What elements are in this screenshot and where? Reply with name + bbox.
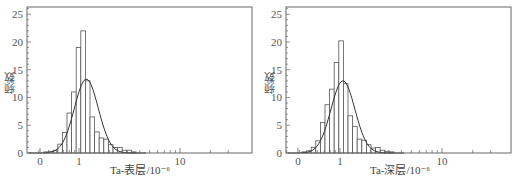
histogram-bar (81, 31, 86, 153)
y-tick-label: 0 (18, 147, 24, 159)
histogram-bar (95, 132, 100, 153)
histogram-bars (44, 31, 136, 153)
plot-frame (286, 7, 511, 153)
x-axis-label: Ta-深层/10⁻⁶ (370, 161, 430, 177)
histogram-bar (343, 84, 348, 153)
histogram-bar (85, 81, 90, 153)
x-axis-label: Ta-表层/10⁻⁶ (110, 161, 170, 177)
histogram-bar (348, 116, 353, 153)
y-axis-label: 频数 (262, 72, 278, 94)
histogram-bars (302, 41, 394, 153)
y-axis-label: 频数 (2, 72, 18, 94)
histogram-deep-layer: 05101520250110 频数 Ta-深层/10⁻⁶ (257, 0, 514, 178)
y-tick-label: 5 (277, 119, 283, 131)
histogram-bar (339, 41, 344, 153)
histogram-surface-layer: 05101520250110 频数 Ta-表层/10⁻⁶ (0, 0, 257, 178)
x-tick-label: 1 (337, 155, 343, 167)
histogram-bar (320, 122, 325, 153)
chart-plot-surface: 05101520250110 (257, 0, 514, 178)
histogram-bar (357, 139, 362, 153)
histogram-bar (353, 126, 358, 153)
histogram-bar (90, 117, 95, 153)
x-tick-label: 10 (175, 155, 187, 167)
y-tick-label: 20 (271, 36, 283, 48)
histogram-bar (104, 139, 109, 153)
x-tick-label: 10 (437, 155, 449, 167)
histogram-bar (334, 63, 339, 153)
x-tick-label: 0 (295, 155, 301, 167)
y-tick-label: 20 (12, 36, 24, 48)
y-tick-label: 25 (12, 8, 24, 20)
x-tick-label: 1 (76, 155, 82, 167)
plot-frame (27, 7, 252, 153)
y-tick-label: 5 (18, 119, 24, 131)
y-tick-label: 25 (271, 8, 283, 20)
x-tick-label: 0 (37, 155, 43, 167)
chart-plot-surface: 05101520250110 (0, 0, 257, 178)
y-tick-label: 0 (277, 147, 283, 159)
histogram-bar (99, 138, 104, 153)
histogram-bar (72, 92, 77, 153)
